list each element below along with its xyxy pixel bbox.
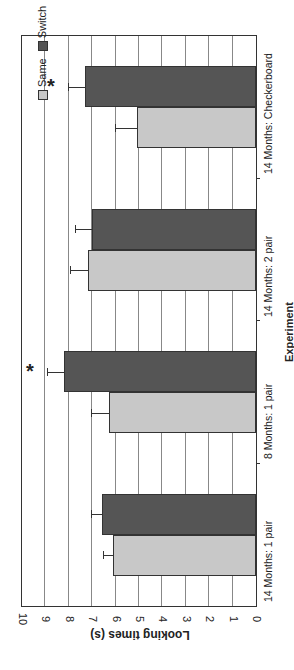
y-tick-label: 10 <box>17 609 29 629</box>
bar-same <box>113 535 256 576</box>
y-tick-label: 7 <box>87 609 99 629</box>
x-axis-label: Experiment <box>283 302 294 362</box>
error-cap <box>47 368 48 376</box>
bar-same <box>137 107 256 148</box>
error-cap <box>115 124 116 132</box>
error-bar <box>92 413 108 414</box>
gridline <box>68 36 69 606</box>
error-cap <box>91 409 92 417</box>
legend-label-same: Same <box>36 58 48 87</box>
y-axis-label: Looking times (s) <box>90 628 190 642</box>
gridline <box>91 36 92 606</box>
bar-switch <box>92 209 256 250</box>
error-cap <box>103 551 104 559</box>
y-tick-label: 4 <box>157 609 169 629</box>
error-bar <box>104 555 113 556</box>
legend-label-switch: Switch <box>36 6 48 38</box>
error-cap <box>68 83 69 91</box>
y-tick-label: 2 <box>204 609 216 629</box>
category-tick <box>256 320 260 321</box>
category-label: 14 Months: 2 pair <box>262 177 274 317</box>
gridline <box>44 36 45 606</box>
error-cap <box>75 225 76 233</box>
error-cap <box>91 510 92 518</box>
y-tick-label: 9 <box>40 609 52 629</box>
category-tick <box>256 463 260 464</box>
significance-star: * <box>26 360 34 383</box>
error-bar <box>71 270 87 271</box>
bar-same <box>109 392 256 433</box>
bar-switch <box>102 494 256 535</box>
y-tick-label: 3 <box>181 609 193 629</box>
y-tick-label: 0 <box>251 609 263 629</box>
bar-switch <box>85 66 256 107</box>
error-bar <box>116 128 137 129</box>
bar-switch <box>64 351 256 392</box>
error-bar <box>48 372 64 373</box>
error-bar <box>92 514 101 515</box>
error-bar <box>69 87 85 88</box>
category-label: 14 Months: Checkerboard <box>262 34 274 174</box>
error-cap <box>70 266 71 274</box>
legend-swatch-same <box>38 90 48 100</box>
plot-area: ** <box>21 35 257 607</box>
category-tick <box>256 178 260 179</box>
category-label: 8 Months: 1 pair <box>262 319 274 459</box>
y-tick-label: 1 <box>228 609 240 629</box>
legend-swatch-switch <box>38 41 48 51</box>
legend: Same Switch <box>36 6 48 100</box>
y-tick-label: 8 <box>64 609 76 629</box>
y-tick-label: 5 <box>134 609 146 629</box>
y-tick-label: 6 <box>111 609 123 629</box>
bar-same <box>88 250 256 291</box>
significance-star: * <box>47 75 55 98</box>
error-bar <box>76 229 92 230</box>
category-label: 14 Months: 1 pair <box>262 462 274 602</box>
